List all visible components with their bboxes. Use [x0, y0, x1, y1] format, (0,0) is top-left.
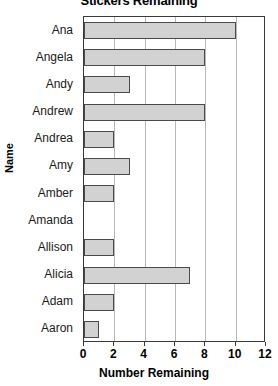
bar-andrew: [84, 104, 205, 121]
bar-row: [84, 22, 264, 39]
x-tick-label-0: 0: [80, 347, 87, 361]
bar-row: [84, 212, 264, 229]
bar-row: [84, 131, 264, 148]
x-tick-mark: [144, 342, 145, 346]
bar-row: [84, 185, 264, 202]
y-tick-label-andrew: Andrew: [32, 104, 73, 118]
plot-area: [83, 16, 265, 342]
bar-row: [84, 294, 264, 311]
y-tick-label-aaron: Aaron: [41, 321, 73, 335]
y-axis-tick-labels: AnaAngelaAndyAndrewAndreaAmyAmberAmandaA…: [0, 16, 78, 342]
bar-row: [84, 49, 264, 66]
y-tick-label-amanda: Amanda: [28, 213, 73, 227]
y-tick-label-adam: Adam: [42, 294, 73, 308]
bars-layer: [84, 17, 264, 341]
x-tick-label-6: 6: [171, 347, 178, 361]
bar-row: [84, 104, 264, 121]
bar-angela: [84, 49, 205, 66]
x-tick-label-10: 10: [228, 347, 241, 361]
y-tick-label-amber: Amber: [38, 186, 73, 200]
y-tick-label-alicia: Alicia: [44, 267, 73, 281]
x-tick-label-12: 12: [258, 347, 271, 361]
x-tick-mark: [204, 342, 205, 346]
bar-chart: Stickers Remaining Name AnaAngelaAndyAnd…: [0, 0, 278, 386]
y-tick-label-angela: Angela: [36, 50, 73, 64]
bar-andrea: [84, 131, 114, 148]
x-tick-mark: [113, 342, 114, 346]
x-tick-mark: [83, 342, 84, 346]
bar-row: [84, 267, 264, 284]
y-tick-label-andy: Andy: [46, 77, 73, 91]
x-tick-label-4: 4: [140, 347, 147, 361]
x-axis-title: Number Remaining: [30, 366, 278, 380]
bar-aaron: [84, 321, 99, 338]
x-axis-tick-labels: 024681012: [83, 342, 265, 364]
y-tick-label-amy: Amy: [49, 158, 73, 172]
bar-amy: [84, 158, 130, 175]
bar-row: [84, 321, 264, 338]
x-tick-mark: [174, 342, 175, 346]
x-tick-mark: [265, 342, 266, 346]
bar-alicia: [84, 267, 190, 284]
x-tick-mark: [235, 342, 236, 346]
bar-row: [84, 158, 264, 175]
bar-adam: [84, 294, 114, 311]
chart-title: Stickers Remaining: [0, 0, 278, 8]
bar-row: [84, 239, 264, 256]
y-tick-label-andrea: Andrea: [34, 131, 73, 145]
y-tick-label-allison: Allison: [38, 240, 73, 254]
y-tick-label-ana: Ana: [52, 23, 73, 37]
bar-amber: [84, 185, 114, 202]
bar-row: [84, 76, 264, 93]
bar-allison: [84, 239, 114, 256]
bar-andy: [84, 76, 130, 93]
x-tick-label-2: 2: [110, 347, 117, 361]
x-tick-label-8: 8: [201, 347, 208, 361]
bar-ana: [84, 22, 236, 39]
